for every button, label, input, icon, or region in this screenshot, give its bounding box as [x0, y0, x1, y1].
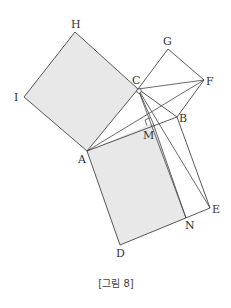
- label-i: I: [14, 91, 18, 104]
- rectangle-amnd: [87, 123, 186, 245]
- label-h: H: [71, 18, 81, 31]
- label-n: N: [185, 219, 195, 232]
- label-m: M: [143, 129, 154, 142]
- square-cgfb: [138, 49, 204, 117]
- label-a: A: [77, 153, 87, 166]
- square-achi: [24, 32, 138, 151]
- line-cf: [138, 80, 204, 89]
- label-e: E: [212, 203, 220, 216]
- label-f: F: [206, 75, 214, 88]
- figure-caption: [그림 8]: [98, 278, 133, 289]
- pythagorean-diagram: H I C A G F B M D N E [그림 8]: [0, 0, 231, 308]
- label-d: D: [116, 247, 125, 260]
- label-g: G: [163, 35, 172, 48]
- label-c: C: [132, 74, 140, 87]
- angle-marker-c: [137, 89, 142, 94]
- label-b: B: [179, 112, 187, 125]
